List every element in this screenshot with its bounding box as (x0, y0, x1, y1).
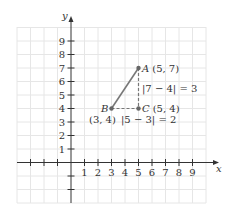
y-tick-label: 2 (59, 130, 65, 141)
y-tick-labels: 9 8 7 6 5 4 3 2 1 (59, 36, 65, 155)
x-axis-label: x (216, 163, 222, 174)
y-tick-label: 9 (59, 36, 65, 47)
y-axis-label: y (61, 10, 68, 21)
y-tick-label: 8 (59, 49, 65, 60)
x-tick-label: 8 (176, 167, 182, 178)
point-c (136, 106, 140, 110)
x-tick-label: 9 (189, 167, 195, 178)
horizontal-distance-annotation: |5 − 3| = 2 (121, 114, 176, 126)
y-tick-label: 3 (59, 117, 65, 128)
x-tick-label: 4 (122, 167, 128, 178)
point-c-label: C(5, 4) (142, 103, 180, 114)
y-axis-arrow-icon (69, 16, 74, 22)
point-a (136, 66, 140, 70)
point-b (109, 106, 113, 110)
point-a-label: A(5, 7) (141, 63, 179, 74)
x-tick-label: 7 (162, 167, 168, 178)
x-tick-label: 1 (81, 167, 87, 178)
x-tick-label: 5 (135, 167, 141, 178)
x-tick-label: 2 (95, 167, 101, 178)
point-b-coords: (3, 4) (89, 114, 116, 125)
x-tick-labels: 1 2 3 4 5 6 7 8 9 (81, 167, 195, 178)
y-tick-label: 7 (59, 63, 65, 74)
y-tick-label: 6 (59, 76, 65, 87)
y-tick-label: 5 (59, 90, 65, 101)
x-tick-label: 3 (108, 167, 114, 178)
y-tick-label: 4 (59, 103, 65, 114)
x-tick-label: 6 (149, 167, 155, 178)
y-tick-label: 1 (59, 144, 65, 155)
coordinate-plane-diagram: x y 1 2 3 4 5 6 7 8 9 9 8 7 6 5 4 3 2 1 … (0, 0, 232, 210)
vertical-distance-annotation: |7 − 4| = 3 (142, 83, 197, 95)
point-b-name: B (100, 103, 108, 114)
